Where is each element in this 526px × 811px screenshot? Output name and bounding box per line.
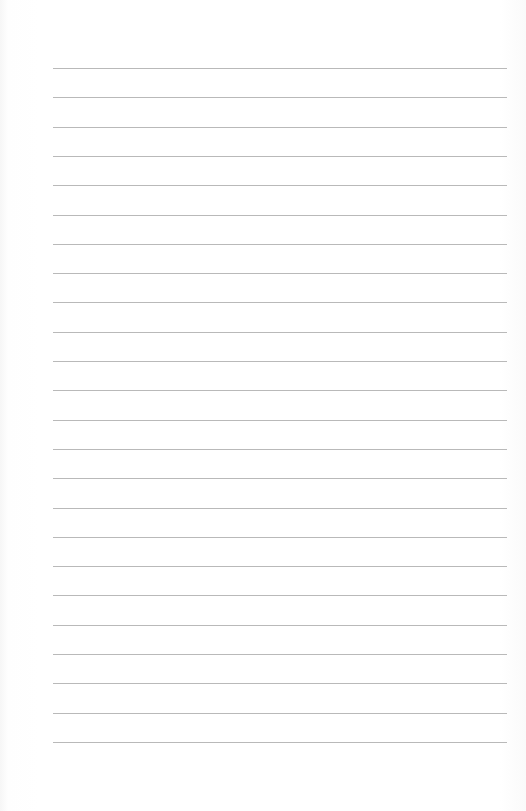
ruled-line bbox=[53, 625, 507, 626]
ruled-line bbox=[53, 420, 507, 421]
ruled-line bbox=[53, 654, 507, 655]
ruled-line bbox=[53, 97, 507, 98]
ruled-line bbox=[53, 449, 507, 450]
ruled-line bbox=[53, 595, 507, 596]
ruled-line bbox=[53, 508, 507, 509]
ruled-line bbox=[53, 390, 507, 391]
ruled-line bbox=[53, 713, 507, 714]
ruled-line bbox=[53, 273, 507, 274]
ruled-line bbox=[53, 537, 507, 538]
ruled-line bbox=[53, 185, 507, 186]
lined-paper-page bbox=[0, 0, 526, 811]
ruled-line bbox=[53, 683, 507, 684]
ruled-line bbox=[53, 332, 507, 333]
ruled-line bbox=[53, 68, 507, 69]
ruled-line bbox=[53, 742, 507, 743]
ruled-line bbox=[53, 244, 507, 245]
ruled-line bbox=[53, 127, 507, 128]
ruled-line bbox=[53, 302, 507, 303]
ruled-line bbox=[53, 215, 507, 216]
ruled-line bbox=[53, 478, 507, 479]
ruled-line bbox=[53, 361, 507, 362]
ruled-line bbox=[53, 156, 507, 157]
ruled-line bbox=[53, 566, 507, 567]
